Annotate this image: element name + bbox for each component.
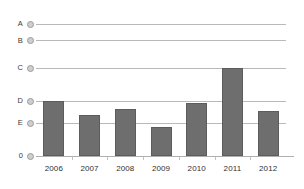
x-tickmark xyxy=(179,157,180,160)
gridline-d xyxy=(36,101,286,102)
x-tick-label-2012: 2012 xyxy=(248,164,288,173)
x-tick-label-2009: 2009 xyxy=(141,164,181,173)
y-tick-marker-icon xyxy=(27,98,34,105)
x-tick-label-2007: 2007 xyxy=(70,164,110,173)
y-tick-label: C xyxy=(17,64,27,72)
plot-area xyxy=(36,0,294,189)
bar-2009[interactable] xyxy=(151,127,172,156)
x-tickmark xyxy=(143,157,144,160)
y-tick-marker-icon xyxy=(27,21,34,28)
bar-2012[interactable] xyxy=(258,111,279,156)
x-tickmark xyxy=(215,157,216,160)
y-tick-label: D xyxy=(17,97,27,105)
gridline-c xyxy=(36,68,286,69)
bar-2010[interactable] xyxy=(186,103,207,156)
y-tick-c: C xyxy=(0,62,36,74)
y-tick-marker-icon xyxy=(27,120,34,127)
x-tick-label-2006: 2006 xyxy=(34,164,74,173)
y-tick-e: E xyxy=(0,117,36,129)
y-tick-marker-icon xyxy=(27,65,34,72)
y-tick-label: E xyxy=(18,119,27,127)
y-tick-marker-icon xyxy=(27,153,34,160)
x-tickmark xyxy=(72,157,73,160)
bar-2007[interactable] xyxy=(79,115,100,156)
y-tick-label: 0 xyxy=(19,152,27,160)
bar-2008[interactable] xyxy=(115,109,136,156)
x-axis-baseline xyxy=(36,156,294,157)
y-tick-label: B xyxy=(18,37,27,45)
x-tickmark xyxy=(107,157,108,160)
bar-2006[interactable] xyxy=(43,101,64,156)
y-tick-label: A xyxy=(18,20,27,28)
y-tick-d: D xyxy=(0,95,36,107)
gridline-a xyxy=(36,24,286,25)
gridline-b xyxy=(36,40,286,41)
x-tickmark xyxy=(250,157,251,160)
y-tick-0: 0 xyxy=(0,150,36,162)
x-tick-label-2008: 2008 xyxy=(105,164,145,173)
y-tick-b: B xyxy=(0,35,36,47)
bar-2011[interactable] xyxy=(222,68,243,156)
gridline-e xyxy=(36,123,286,124)
bar-chart: ABCDE0 2006200720082009201020112012 xyxy=(0,0,304,189)
y-tick-marker-icon xyxy=(27,37,34,44)
y-tick-a: A xyxy=(0,18,36,30)
x-tick-label-2010: 2010 xyxy=(177,164,217,173)
x-tick-label-2011: 2011 xyxy=(212,164,252,173)
